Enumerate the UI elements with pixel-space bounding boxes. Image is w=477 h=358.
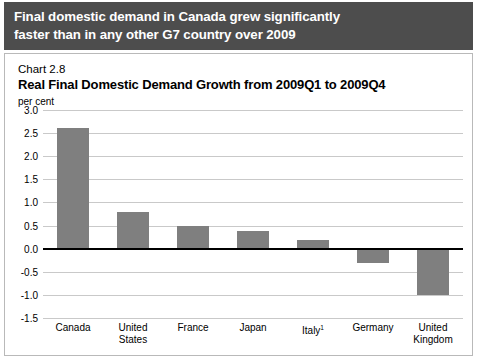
y-axis-tick-label: 2.5 [24,128,38,139]
chart-panel: Chart 2.8 Real Final Domestic Demand Gro… [4,53,473,356]
chart-bar [177,226,209,249]
y-axis-tick-label: -1.5 [21,313,38,324]
chart-bar [57,128,89,248]
headline-banner: Final domestic demand in Canada grew sig… [4,2,473,50]
y-axis-tick-label: 2.0 [24,151,38,162]
footnote-marker: 1 [320,324,324,331]
gridline [43,295,463,296]
y-axis-tick-label: 1.5 [24,174,38,185]
x-axis-label-line: Kingdom [398,334,468,346]
gridline [43,110,463,111]
gridline [43,226,463,227]
chart-title: Real Final Domestic Demand Growth from 2… [18,77,385,92]
y-axis-tick-label: -0.5 [21,266,38,277]
headline-line-1: Final domestic demand in Canada grew sig… [14,8,463,26]
y-axis-tick-label: 0.0 [24,243,38,254]
zero-axis-line [43,248,463,250]
gridline [43,202,463,203]
y-axis-tick-label: 0.5 [24,220,38,231]
chart-bar [357,249,389,263]
headline-line-2: faster than in any other G7 country over… [14,26,463,44]
x-axis-label-line: United [398,322,468,334]
chart-bar [417,249,449,295]
chart-number-label: Chart 2.8 [18,63,65,75]
gridline [43,179,463,180]
chart-bar [237,231,269,249]
gridline [43,156,463,157]
chart-figure: Final domestic demand in Canada grew sig… [0,0,477,358]
gridline [43,133,463,134]
x-axis-label-line: States [98,334,168,346]
gridline [43,272,463,273]
y-axis-tick-label: -1.0 [21,289,38,300]
plot-area: 3.02.52.01.51.00.50.0-0.5-1.0-1.5CanadaU… [43,110,463,318]
chart-bar [117,212,149,249]
y-axis-tick-label: 3.0 [24,105,38,116]
y-axis-tick-label: 1.0 [24,197,38,208]
x-axis-category-label: UnitedKingdom [398,322,468,345]
gridline [43,318,463,319]
